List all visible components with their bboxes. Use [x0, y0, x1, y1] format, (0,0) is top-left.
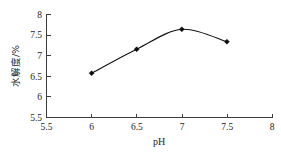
x-tick-label: 8: [270, 122, 275, 132]
y-axis-title: 水解度/%: [10, 45, 21, 87]
y-tick-label: 6: [37, 92, 42, 102]
x-tick-label: 7.5: [221, 122, 233, 132]
chart-figure: 8 7.5 7 6.5 6 5.5 5.5 6 6.5 7 7.5 8 pH 水…: [0, 0, 281, 162]
chart-background: [0, 0, 281, 162]
y-tick-label: 8: [37, 10, 42, 20]
line-chart: 8 7.5 7 6.5 6 5.5 5.5 6 6.5 7 7.5 8 pH 水…: [0, 0, 281, 162]
x-tick-label: 6.5: [131, 122, 143, 132]
x-tick-label: 6: [89, 122, 94, 132]
y-tick-label: 6.5: [30, 72, 42, 82]
x-tick-label: 5.5: [41, 122, 53, 132]
y-tick-label: 7: [37, 51, 42, 61]
x-tick-label: 7: [180, 122, 185, 132]
y-tick-label: 7.5: [30, 30, 42, 40]
x-axis-title: pH: [153, 136, 165, 147]
